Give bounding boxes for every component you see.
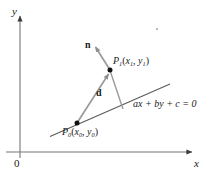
diagram-svg: [0, 0, 208, 176]
origin-label: 0: [14, 158, 20, 169]
y-axis-label: y: [12, 6, 17, 17]
point-p1-dot: [108, 68, 113, 73]
page-speck: [156, 28, 158, 30]
vector-n-label: n: [85, 40, 91, 50]
vector-d-arrow: [77, 74, 109, 123]
p1-paren-close: ): [146, 55, 149, 66]
vector-d-label: d: [96, 88, 102, 98]
x-axis-label: x: [194, 158, 199, 169]
figure-canvas: y x 0 n d P1(x1, y1) P0(x0, y0) ax + by …: [0, 0, 208, 176]
vector-n-arrow: [96, 47, 111, 70]
line-equation-label: ax + by + c = 0: [133, 99, 197, 109]
perpendicular-segment: [110, 71, 123, 110]
p0-paren-close: ): [95, 126, 98, 137]
point-p0-label: P0(x0, y0): [62, 127, 98, 138]
point-p1-label: P1(x1, y1): [113, 56, 149, 67]
point-p0-dot: [75, 121, 80, 126]
